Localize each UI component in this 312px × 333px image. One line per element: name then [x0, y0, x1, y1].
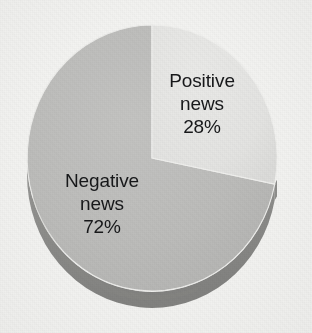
slice-label-positive-news-line1: Positive: [152, 69, 252, 92]
pie-chart-page: Positive news 28% Negative news 72%: [0, 0, 312, 333]
pie-top-faces: [27, 25, 277, 291]
slice-label-negative-news-line1: Negative: [50, 169, 154, 192]
pie-chart-graphic: [0, 0, 312, 333]
slice-label-negative-news-line2: news: [50, 192, 154, 215]
slice-label-negative-news: Negative news 72%: [50, 169, 154, 238]
slice-label-positive-news-line2: news: [152, 92, 252, 115]
slice-value-positive-news: 28%: [152, 115, 252, 138]
slice-value-negative-news: 72%: [50, 215, 154, 238]
slice-label-positive-news: Positive news 28%: [152, 69, 252, 138]
